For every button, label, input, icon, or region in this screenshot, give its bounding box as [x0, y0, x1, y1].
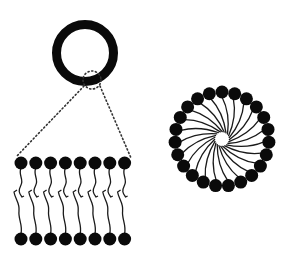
- lipid-head-bottom: [74, 233, 87, 246]
- lipid-head-top: [103, 157, 116, 170]
- bilayer-lipid-pair: [88, 157, 102, 246]
- bilayer-lipid-pair: [44, 157, 58, 246]
- micelle-lipid-head: [245, 169, 258, 182]
- vesicle-ring: [57, 25, 114, 82]
- micelle-lipid-tail: [200, 103, 224, 132]
- micelle-lipid-head: [216, 86, 229, 99]
- bilayer-lipid-pair: [58, 157, 72, 246]
- micelle-lipid-head: [257, 111, 270, 124]
- lipid-tail-bottom: [29, 190, 36, 234]
- lipid-head-bottom: [118, 233, 131, 246]
- micelle-lipid-tail: [185, 120, 221, 132]
- lipid-head-bottom: [103, 233, 116, 246]
- lipid-head-top: [15, 157, 28, 170]
- micelle: [169, 86, 276, 193]
- callout-line-left: [16, 86, 84, 157]
- lipid-tail-top: [64, 168, 69, 197]
- lipid-tail-bottom: [118, 190, 125, 234]
- bilayer-lipid-pair: [14, 157, 28, 246]
- lipid-head-top: [59, 157, 72, 170]
- micelle-lipid-tail: [188, 137, 216, 163]
- micelle-lipid: [222, 146, 267, 173]
- lipid-head-bottom: [59, 233, 72, 246]
- bilayer-lipid-pair: [29, 157, 43, 246]
- lipid-structures-diagram: [0, 0, 288, 253]
- lipid-tail-top: [108, 168, 113, 197]
- lipid-head-top: [44, 157, 57, 170]
- micelle-lipid-head: [171, 148, 184, 161]
- lipid-head-bottom: [15, 233, 28, 246]
- micelle-lipid-tail: [181, 128, 219, 132]
- lipid-head-bottom: [29, 233, 42, 246]
- vesicle-membrane-ring: [57, 25, 114, 82]
- micelle-lipid-tail: [228, 99, 234, 137]
- lipid-tail-top: [49, 168, 54, 197]
- zoom-callout: [16, 71, 131, 158]
- lipid-head-top: [74, 157, 87, 170]
- micelle-lipid-tail: [213, 143, 216, 181]
- lipid-tail-bottom: [58, 190, 65, 234]
- callout-line-right: [100, 86, 131, 158]
- lipid-head-bottom: [89, 233, 102, 246]
- micelle-lipid-head: [169, 136, 182, 149]
- micelle-lipid-head: [177, 160, 190, 173]
- micelle-lipid-head: [234, 176, 247, 189]
- micelle-lipid-head: [174, 111, 187, 124]
- bilayer-lipid-pair: [103, 157, 117, 246]
- lipid-tail-top: [123, 168, 128, 197]
- micelle-lipid-head: [197, 176, 210, 189]
- lipid-tail-bottom: [14, 190, 21, 234]
- micelle-lipid-tail: [229, 103, 244, 138]
- micelle-lipid-head: [260, 148, 273, 161]
- bilayer-lipid-pair: [73, 157, 87, 246]
- micelle-lipid-head: [262, 136, 275, 149]
- micelle-lipid-head: [250, 100, 263, 113]
- micelle-lipid-head: [228, 87, 241, 100]
- lipid-tail-top: [34, 168, 39, 197]
- lipid-tail-bottom: [88, 190, 95, 234]
- lipid-tail-bottom: [73, 190, 80, 234]
- lipid-head-bottom: [44, 233, 57, 246]
- micelle-lipid: [186, 139, 215, 182]
- lipid-bilayer: [14, 157, 131, 246]
- lipid-tail-top: [93, 168, 98, 197]
- lipid-head-top: [89, 157, 102, 170]
- micelle-lipid-head: [209, 179, 222, 192]
- micelle-lipid-head: [203, 87, 216, 100]
- micelle-lipid-head: [222, 179, 235, 192]
- lipid-tail-top: [19, 168, 24, 197]
- micelle-lipid-head: [169, 123, 182, 136]
- lipid-tail-bottom: [44, 190, 51, 234]
- micelle-lipid-head: [191, 92, 204, 105]
- lipid-head-top: [118, 157, 131, 170]
- lipid-tail-top: [78, 168, 83, 197]
- lipid-tail-bottom: [103, 190, 110, 234]
- diagram-canvas: [0, 0, 288, 253]
- bilayer-lipid-pair: [118, 157, 132, 246]
- micelle-lipid-head: [262, 123, 275, 136]
- lipid-head-top: [29, 157, 42, 170]
